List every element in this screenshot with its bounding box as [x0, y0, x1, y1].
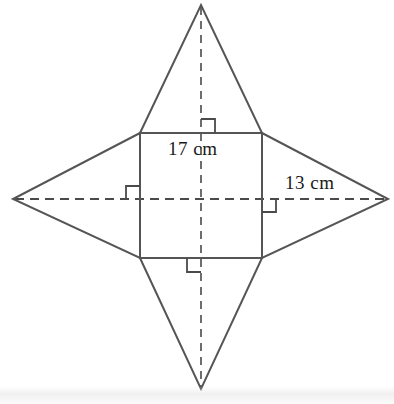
triangular-face-left [13, 133, 140, 258]
pyramid-net-diagram [0, 0, 394, 404]
dashed-construction-lines [15, 7, 386, 387]
right-angle-mark-bottom [187, 258, 201, 272]
right-angle-mark-top [201, 119, 215, 133]
geometry-figure: 17 cm 13 cm [0, 0, 394, 404]
right-angle-mark-left [126, 186, 140, 199]
slant-height-length-label: 13 cm [285, 172, 334, 194]
triangular-face-right [262, 133, 388, 258]
base-edge-length-label: 17 cm [168, 138, 217, 160]
right-angle-mark-right [262, 199, 276, 212]
